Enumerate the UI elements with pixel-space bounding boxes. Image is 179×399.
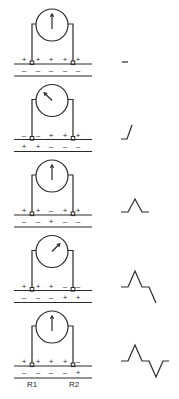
electrode-label-r2: R2 [69,380,80,389]
meter-needle [44,93,52,101]
outer-charge-sign: + [22,206,27,215]
outer-charge-sign: + [63,206,68,215]
electrode-label-r1: R1 [27,380,38,389]
inner-charge-sign: – [36,368,41,377]
inner-charge-sign: – [63,217,68,226]
inner-charge-sign: – [63,66,68,75]
panel-stage-3: ++–++––+–– [14,160,149,227]
panel-stage-1: +++++––––– [14,9,128,76]
inner-charge-sign: – [49,142,54,151]
outer-charge-sign: + [76,206,81,215]
panel-stage-4: +++–––––++ [14,236,156,304]
inner-charge-sign: – [22,217,27,226]
panel-stage-5: ++++–––––+ [14,311,169,378]
outer-charge-sign: + [22,55,27,64]
outer-charge-sign: + [36,357,41,366]
lead-wire-r2 [68,251,73,289]
inner-charge-sign: – [63,142,68,151]
outer-charge-sign: + [76,55,81,64]
outer-charge-sign: – [49,206,54,215]
outer-charge-sign: + [36,206,41,215]
inner-charge-sign: – [49,66,54,75]
lead-wire-r2 [68,175,73,213]
inner-charge-sign: + [22,142,27,151]
outer-charge-sign: + [63,55,68,64]
recorded-waveform [121,125,132,139]
inner-charge-sign: – [36,66,41,75]
outer-charge-sign: + [63,131,68,140]
inner-charge-sign: + [49,217,54,226]
outer-charge-sign: + [76,131,81,140]
inner-charge-sign: – [22,293,27,302]
meter-needle [52,244,60,252]
inner-charge-sign: – [49,368,54,377]
outer-charge-sign: + [22,282,27,291]
outer-charge-sign: – [63,282,68,291]
inner-charge-sign: – [36,217,41,226]
outer-charge-sign: + [36,282,41,291]
inner-charge-sign: – [36,293,41,302]
inner-charge-sign: – [76,66,81,75]
panel-stage-2: ––+++++––– [14,85,132,152]
inner-charge-sign: – [49,293,54,302]
outer-charge-sign: + [49,357,54,366]
outer-charge-sign: – [76,282,81,291]
inner-charge-sign: – [22,368,27,377]
inner-charge-sign: – [22,66,27,75]
outer-charge-sign: + [22,357,27,366]
lead-wire-r2 [68,24,73,62]
outer-charge-sign: – [22,131,27,140]
recorded-waveform [121,345,169,377]
recorded-waveform [121,271,156,303]
outer-charge-sign: – [36,131,41,140]
inner-charge-sign: – [76,217,81,226]
inner-charge-sign: + [63,293,68,302]
outer-charge-sign: – [76,357,81,366]
recorded-waveform [121,199,149,212]
lead-wire-r2 [68,100,73,138]
inner-charge-sign: + [76,293,81,302]
lead-wire-r2 [68,326,73,364]
outer-charge-sign: + [63,357,68,366]
inner-charge-sign: – [63,368,68,377]
outer-charge-sign: + [49,131,54,140]
inner-charge-sign: + [36,142,41,151]
outer-charge-sign: + [36,55,41,64]
inner-charge-sign: – [76,142,81,151]
nerve-recording-diagram: +++++–––––––+++++–––++–++––+––+++–––––++… [0,0,179,399]
outer-charge-sign: + [49,282,54,291]
outer-charge-sign: + [49,55,54,64]
inner-charge-sign: + [76,368,81,377]
